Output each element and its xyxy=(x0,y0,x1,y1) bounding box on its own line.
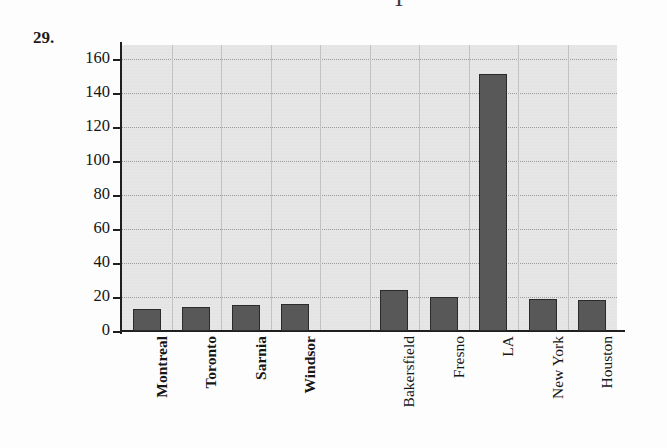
scanned-page: T 29. 020406080100120140160MontrealToron… xyxy=(0,0,667,448)
plot-area xyxy=(122,45,617,331)
x-axis-label: Windsor xyxy=(302,336,318,393)
y-axis-label: 120 xyxy=(60,118,110,135)
bar xyxy=(479,74,507,331)
y-axis-line xyxy=(120,42,122,334)
x-gridline xyxy=(172,45,173,331)
y-axis-tick xyxy=(113,229,121,231)
bar xyxy=(578,300,606,331)
y-axis-label: 160 xyxy=(60,50,110,67)
y-axis-tick xyxy=(113,331,121,333)
bar xyxy=(232,305,260,331)
y-axis-tick xyxy=(113,297,121,299)
x-gridline xyxy=(469,45,470,331)
y-axis-tick xyxy=(113,263,121,265)
x-gridline xyxy=(518,45,519,331)
x-gridline xyxy=(271,45,272,331)
y-axis-label: 140 xyxy=(60,84,110,101)
y-axis-tick xyxy=(113,161,121,163)
y-axis-label: 60 xyxy=(60,220,110,237)
x-axis-label: Sarnia xyxy=(253,336,269,380)
bar xyxy=(281,304,309,331)
x-gridline xyxy=(221,45,222,331)
x-gridline xyxy=(419,45,420,331)
bar xyxy=(430,297,458,331)
x-axis-label: Toronto xyxy=(203,336,219,389)
x-axis-label: Bakersfield xyxy=(401,336,417,407)
bar xyxy=(529,299,557,331)
x-gridline xyxy=(568,45,569,331)
bar xyxy=(380,290,408,331)
y-axis-label: 100 xyxy=(60,152,110,169)
y-axis-label: 0 xyxy=(60,322,110,339)
y-axis-tick xyxy=(113,93,121,95)
bar xyxy=(133,309,161,331)
x-gridline xyxy=(370,45,371,331)
x-axis-label: New York xyxy=(550,336,566,399)
x-axis-label: LA xyxy=(500,336,516,357)
x-gridline xyxy=(320,45,321,331)
x-axis-label: Montreal xyxy=(154,336,170,398)
bar-chart: 020406080100120140160MontrealTorontoSarn… xyxy=(0,0,667,448)
y-axis-tick xyxy=(113,195,121,197)
y-axis-tick xyxy=(113,59,121,61)
bar xyxy=(182,307,210,331)
y-axis-label: 80 xyxy=(60,186,110,203)
y-axis-label: 40 xyxy=(60,254,110,271)
x-axis-label: Houston xyxy=(599,336,615,389)
y-axis-tick xyxy=(113,127,121,129)
y-axis-label: 20 xyxy=(60,288,110,305)
x-axis-label: Fresno xyxy=(451,336,467,378)
